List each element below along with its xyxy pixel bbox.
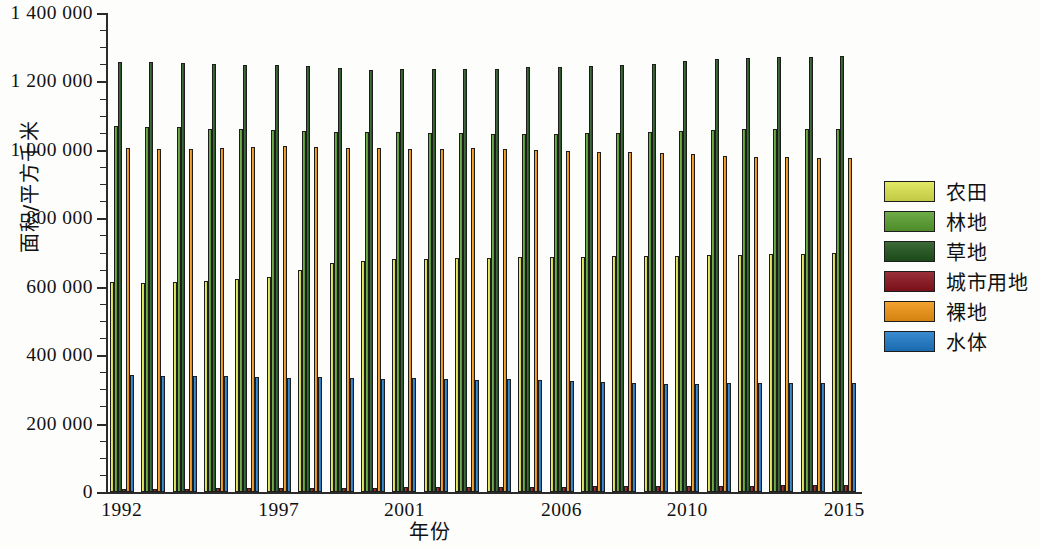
y-tick-minor	[100, 372, 106, 373]
bar-group	[801, 13, 825, 492]
y-tick-major	[97, 492, 106, 494]
bar-草地	[181, 63, 185, 492]
y-tick-label: 800 000	[26, 207, 93, 229]
bar-草地	[746, 58, 750, 492]
bar-水体	[664, 384, 668, 492]
bar-group	[675, 13, 699, 492]
legend-item-水体[interactable]: 水体	[884, 326, 1030, 356]
bar-草地	[432, 69, 436, 492]
legend-label: 农田	[946, 177, 987, 206]
bar-水体	[255, 377, 259, 492]
y-axis-line	[106, 13, 108, 494]
y-tick-minor	[100, 338, 106, 339]
bar-水体	[287, 378, 291, 492]
bar-草地	[118, 62, 122, 492]
bar-group	[769, 13, 793, 492]
bar-草地	[683, 61, 687, 492]
bar-草地	[212, 64, 216, 492]
bar-水体	[852, 383, 856, 492]
legend-label: 裸地	[946, 297, 987, 326]
y-tick-minor	[100, 321, 106, 322]
y-tick-label: 400 000	[26, 344, 93, 366]
bar-水体	[507, 379, 511, 492]
legend-swatch	[884, 241, 935, 262]
bar-group	[173, 13, 197, 492]
legend-label: 草地	[946, 237, 987, 266]
x-axis-title: 年份	[0, 516, 1040, 545]
bar-草地	[809, 57, 813, 492]
bar-草地	[526, 67, 530, 492]
bar-草地	[275, 65, 279, 492]
y-tick-major	[97, 81, 106, 83]
y-tick-label: 600 000	[26, 276, 93, 298]
bar-草地	[369, 70, 373, 492]
bar-水体	[224, 376, 228, 492]
bar-group	[612, 13, 636, 492]
bar-水体	[632, 383, 636, 492]
y-tick-minor	[100, 99, 106, 100]
bar-水体	[538, 380, 542, 492]
legend-swatch	[884, 301, 935, 322]
bar-group	[518, 13, 542, 492]
bar-水体	[444, 379, 448, 492]
y-tick-minor	[100, 64, 106, 65]
bar-草地	[306, 66, 310, 492]
bar-group	[738, 13, 762, 492]
bar-草地	[589, 66, 593, 492]
y-tick-minor	[100, 475, 106, 476]
y-tick-minor	[100, 133, 106, 134]
y-tick-minor	[100, 235, 106, 236]
y-tick-label: 200 000	[26, 413, 93, 435]
bar-水体	[193, 376, 197, 492]
y-tick-major	[97, 355, 106, 357]
legend-item-农田[interactable]: 农田	[884, 176, 1030, 206]
bar-草地	[652, 64, 656, 492]
bar-group	[392, 13, 416, 492]
y-tick-label: 1 400 000	[11, 2, 94, 24]
bar-水体	[350, 378, 354, 492]
bar-草地	[149, 62, 153, 492]
bar-group	[330, 13, 354, 492]
legend-label: 水体	[946, 327, 987, 356]
y-tick-minor	[100, 304, 106, 305]
legend-item-裸地[interactable]: 裸地	[884, 296, 1030, 326]
legend-item-草地[interactable]: 草地	[884, 236, 1030, 266]
bar-草地	[715, 59, 719, 492]
bar-group	[455, 13, 479, 492]
y-tick-minor	[100, 458, 106, 459]
bar-水体	[318, 377, 322, 492]
bar-草地	[243, 65, 247, 492]
bar-草地	[620, 65, 624, 492]
y-tick-minor	[100, 270, 106, 271]
y-tick-label: 0	[83, 481, 93, 503]
legend-label: 林地	[946, 207, 987, 236]
legend-item-林地[interactable]: 林地	[884, 206, 1030, 236]
bar-水体	[475, 380, 479, 492]
bar-group	[550, 13, 574, 492]
bar-group	[361, 13, 385, 492]
y-tick-major	[97, 150, 106, 152]
legend-swatch	[884, 331, 935, 352]
bar-水体	[161, 376, 165, 492]
bar-group	[298, 13, 322, 492]
legend-label: 城市用地	[946, 267, 1028, 296]
bar-group	[141, 13, 165, 492]
y-tick-minor	[100, 116, 106, 117]
bar-水体	[130, 375, 134, 492]
y-tick-minor	[100, 441, 106, 442]
bar-group	[204, 13, 228, 492]
legend-item-城市用地[interactable]: 城市用地	[884, 266, 1030, 296]
bar-水体	[381, 379, 385, 492]
land-cover-area-bar-chart: 面积/平方千米 0200 000400 000600 000800 0001 0…	[0, 0, 1040, 548]
y-tick-minor	[100, 30, 106, 31]
plot-area: 0200 000400 000600 000800 0001 000 0001 …	[106, 13, 860, 493]
x-axis-line	[106, 492, 862, 494]
legend-swatch	[884, 271, 935, 292]
y-tick-minor	[100, 389, 106, 390]
bar-group	[644, 13, 668, 492]
y-tick-major	[97, 287, 106, 289]
y-tick-label: 1 000 000	[11, 139, 94, 161]
bar-group	[424, 13, 448, 492]
y-tick-label: 1 200 000	[11, 70, 94, 92]
bar-group	[832, 13, 856, 492]
